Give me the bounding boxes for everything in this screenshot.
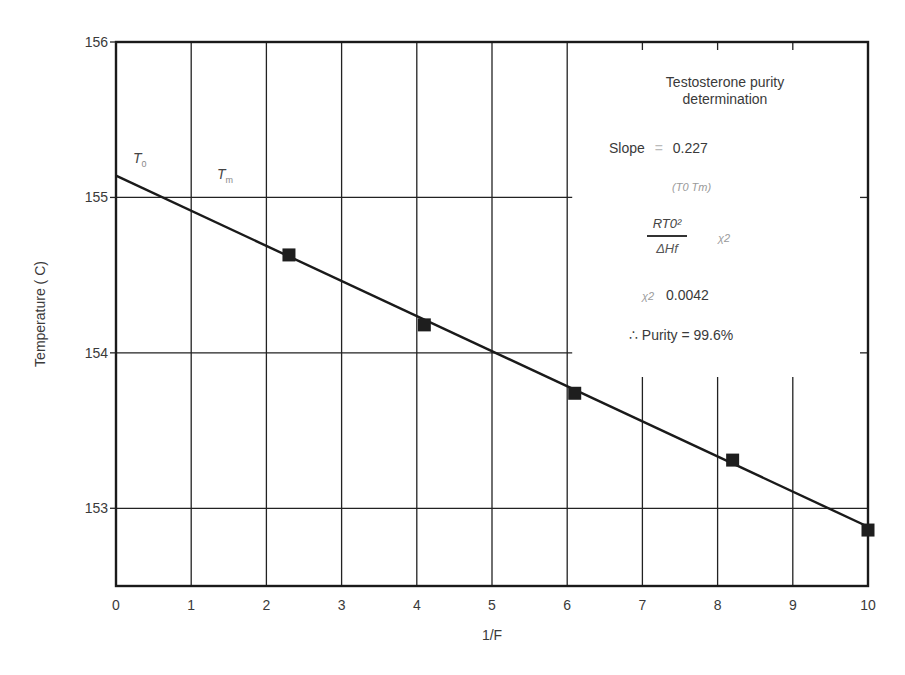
tm-subscript: m — [226, 175, 234, 185]
x-tick-label: 9 — [789, 597, 797, 613]
t0-letter: T — [133, 150, 142, 166]
chi-row: χ2 0.0042 — [642, 287, 709, 303]
difference-expression: (T0 Tm) — [672, 181, 711, 193]
y-axis-ticks: 153154155156 — [85, 34, 116, 516]
x-tick-label: 4 — [413, 597, 421, 613]
x-tick-label: 8 — [714, 597, 722, 613]
x-tick-label: 5 — [488, 597, 496, 613]
x-axis-label: 1/F — [482, 627, 502, 643]
chi-multiplier: χ2 — [718, 232, 730, 244]
fraction-bar — [647, 235, 687, 237]
slope-equals: = — [655, 140, 663, 156]
y-axis-label: Temperature ( C) — [32, 261, 48, 367]
annotation-title: Testosterone purity determination — [590, 74, 860, 108]
x-tick-label: 7 — [639, 597, 647, 613]
data-point-square — [862, 524, 875, 537]
purity-result: ∴ Purity = 99.6% — [629, 327, 733, 343]
t0-subscript: 0 — [142, 159, 147, 169]
x-tick-label: 6 — [563, 597, 571, 613]
fraction-expression: RT0² ΔHf — [647, 216, 687, 256]
chi-symbol: χ2 — [642, 290, 654, 302]
x-tick-label: 10 — [860, 597, 876, 613]
annotation-title-line1: Testosterone purity — [590, 74, 860, 91]
x-tick-label: 1 — [187, 597, 195, 613]
tm-letter: T — [217, 166, 226, 182]
data-points — [282, 248, 874, 536]
fraction-denominator: ΔHf — [647, 241, 687, 256]
fraction-numerator: RT0² — [647, 216, 687, 231]
y-tick-label: 155 — [85, 189, 109, 205]
slope-value: 0.227 — [673, 140, 708, 156]
slope-row: Slope = 0.227 — [609, 140, 708, 156]
t0-label: T0 — [133, 150, 147, 169]
chi-value: 0.0042 — [666, 287, 709, 303]
y-tick-label: 156 — [85, 34, 109, 50]
grid-lines — [116, 42, 868, 586]
fit-line — [116, 176, 872, 529]
y-tick-label: 154 — [85, 345, 109, 361]
x-tick-label: 2 — [263, 597, 271, 613]
tm-label: Tm — [217, 166, 233, 185]
regression-line — [116, 176, 872, 529]
data-point-square — [568, 387, 581, 400]
x-tick-label: 0 — [112, 597, 120, 613]
data-point-square — [726, 454, 739, 467]
x-axis-ticks: 012345678910 — [112, 597, 876, 613]
x-tick-label: 3 — [338, 597, 346, 613]
annotation-title-line2: determination — [590, 91, 860, 108]
slope-label: Slope — [609, 140, 645, 156]
data-point-square — [418, 318, 431, 331]
y-tick-label: 153 — [85, 500, 109, 516]
data-point-square — [282, 248, 295, 261]
